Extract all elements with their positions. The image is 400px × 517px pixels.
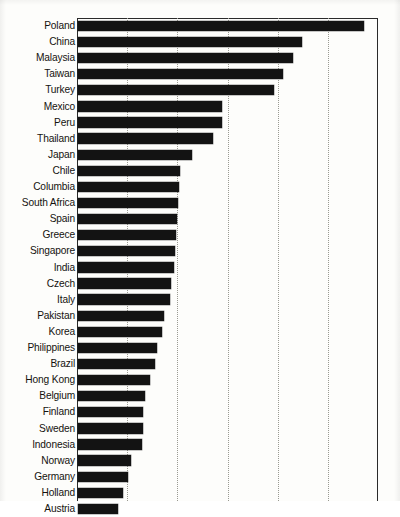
bar-track	[78, 276, 378, 292]
bar-austria	[78, 504, 118, 514]
category-label-india: India	[0, 260, 75, 276]
category-label-czech: Czech	[0, 276, 75, 292]
category-label-italy: Italy	[0, 292, 75, 308]
category-label-columbia: Columbia	[0, 179, 75, 195]
category-label-germany: Germany	[0, 469, 75, 485]
bar-track	[78, 147, 378, 163]
category-label-thailand: Thailand	[0, 131, 75, 147]
bar-row: Malaysia	[0, 50, 400, 66]
bar-poland	[78, 21, 364, 31]
bar-track	[78, 18, 378, 34]
bar-track	[78, 260, 378, 276]
bar-singapore	[78, 246, 175, 256]
bar-norway	[78, 455, 131, 465]
bar-italy	[78, 294, 170, 304]
bar-track	[78, 485, 378, 501]
bar-china	[78, 37, 302, 47]
bar-japan	[78, 150, 192, 160]
bar-row: Columbia	[0, 179, 400, 195]
bar-row: Belgium	[0, 388, 400, 404]
bar-track	[78, 324, 378, 340]
bar-row: Holland	[0, 485, 400, 501]
bar-track	[78, 372, 378, 388]
bar-track	[78, 227, 378, 243]
bar-korea	[78, 327, 162, 337]
bar-germany	[78, 472, 128, 482]
bar-row: Greece	[0, 227, 400, 243]
bar-row: China	[0, 34, 400, 50]
bar-row: Peru	[0, 115, 400, 131]
bar-row: Philippines	[0, 340, 400, 356]
bar-track	[78, 308, 378, 324]
category-label-japan: Japan	[0, 147, 75, 163]
bar-row: Finland	[0, 404, 400, 420]
bar-track	[78, 340, 378, 356]
bar-peru	[78, 117, 222, 127]
category-label-china: China	[0, 34, 75, 50]
bar-row: Pakistan	[0, 308, 400, 324]
bar-czech	[78, 278, 171, 288]
bar-row: Japan	[0, 147, 400, 163]
bar-turkey	[78, 85, 274, 95]
bar-chile	[78, 166, 180, 176]
bar-brazil	[78, 359, 155, 369]
bar-track	[78, 421, 378, 437]
bar-track	[78, 437, 378, 453]
bar-rows-group: PolandChinaMalaysiaTaiwanTurkeyMexicoPer…	[0, 18, 400, 501]
bar-mexico	[78, 101, 222, 111]
category-label-pakistan: Pakistan	[0, 308, 75, 324]
bar-belgium	[78, 391, 145, 401]
category-label-hong-kong: Hong Kong	[0, 372, 75, 388]
bar-track	[78, 34, 378, 50]
category-label-sweden: Sweden	[0, 421, 75, 437]
bar-track	[78, 82, 378, 98]
bar-track	[78, 469, 378, 485]
category-label-taiwan: Taiwan	[0, 66, 75, 82]
category-label-finland: Finland	[0, 404, 75, 420]
bar-track	[78, 99, 378, 115]
bar-philippines	[78, 343, 157, 353]
bar-track	[78, 195, 378, 211]
bar-south-africa	[78, 198, 178, 208]
bar-sweden	[78, 423, 143, 433]
category-label-mexico: Mexico	[0, 99, 75, 115]
bar-row: Spain	[0, 211, 400, 227]
bar-india	[78, 262, 174, 272]
category-label-indonesia: Indonesia	[0, 437, 75, 453]
category-label-peru: Peru	[0, 115, 75, 131]
bar-row: Mexico	[0, 99, 400, 115]
bar-malaysia	[78, 53, 293, 63]
category-label-greece: Greece	[0, 227, 75, 243]
category-label-spain: Spain	[0, 211, 75, 227]
bar-track	[78, 356, 378, 372]
bar-track	[78, 453, 378, 469]
bar-row: South Africa	[0, 195, 400, 211]
bar-row: Taiwan	[0, 66, 400, 82]
bar-row: Sweden	[0, 421, 400, 437]
bar-track	[78, 404, 378, 420]
category-label-austria: Austria	[0, 501, 75, 517]
bar-thailand	[78, 133, 213, 143]
bar-track	[78, 66, 378, 82]
bar-row: Hong Kong	[0, 372, 400, 388]
bar-track	[78, 292, 378, 308]
bar-pakistan	[78, 311, 164, 321]
category-label-chile: Chile	[0, 163, 75, 179]
category-label-holland: Holland	[0, 485, 75, 501]
bar-track	[78, 115, 378, 131]
bar-track	[78, 131, 378, 147]
category-label-korea: Korea	[0, 324, 75, 340]
bar-row: Turkey	[0, 82, 400, 98]
bar-track	[78, 501, 378, 517]
category-label-norway: Norway	[0, 453, 75, 469]
category-label-singapore: Singapore	[0, 243, 75, 259]
category-label-belgium: Belgium	[0, 388, 75, 404]
bar-track	[78, 388, 378, 404]
bar-track	[78, 50, 378, 66]
bar-row: India	[0, 260, 400, 276]
bar-row: Poland	[0, 18, 400, 34]
bar-row: Thailand	[0, 131, 400, 147]
category-label-poland: Poland	[0, 18, 75, 34]
bar-track	[78, 243, 378, 259]
